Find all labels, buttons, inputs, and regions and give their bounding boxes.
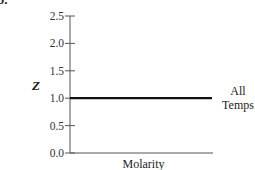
chart: 0.00.51.01.52.02.5ZMolarityAllTemps <box>0 0 255 170</box>
x-axis-label: Molarity <box>123 157 165 170</box>
y-tick-label: 0.5 <box>50 120 65 132</box>
y-axis-label: Z <box>31 78 40 93</box>
y-tick-label: 2.0 <box>50 37 65 49</box>
y-tick-label: 2.5 <box>50 10 65 22</box>
y-tick-label: 0.0 <box>50 147 65 159</box>
y-tick-label: 1.5 <box>50 65 65 77</box>
y-tick-label: 1.0 <box>50 92 65 104</box>
series-label: All <box>230 84 246 98</box>
series-label: Temps <box>222 98 254 112</box>
